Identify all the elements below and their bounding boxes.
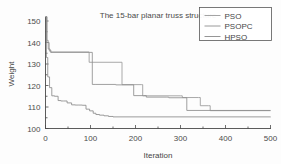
x-tick-label: 400 (219, 134, 233, 143)
x-axis-ticks: 0100200300400500 (43, 125, 277, 143)
y-tick-label: 110 (28, 103, 41, 112)
y-tick-label: 120 (27, 82, 41, 91)
chart-legend: PSOPSOPCHPSO (200, 8, 272, 42)
x-tick-label: 200 (129, 134, 143, 143)
y-tick-label: 130 (27, 60, 41, 69)
x-tick-label: 0 (43, 134, 48, 143)
x-tick-label: 300 (174, 134, 188, 143)
y-axis-label: Weight (7, 61, 16, 87)
y-axis-title-group: Weight (7, 61, 16, 87)
x-tick-label: 500 (264, 134, 278, 143)
legend-label-psopc[interactable]: PSOPC (225, 22, 253, 31)
y-tick-label: 140 (27, 39, 41, 48)
chart-canvas: The 15-bar planar truss structure 100110… (0, 0, 281, 164)
x-tick-label: 100 (84, 134, 98, 143)
legend-label-pso[interactable]: PSO (225, 12, 242, 21)
x-axis-label: Iteration (144, 151, 173, 160)
chart-figure: The 15-bar planar truss structure 100110… (0, 0, 281, 164)
y-tick-label: 150 (27, 17, 41, 26)
x-axis-title-group: Iteration (144, 151, 173, 160)
legend-label-hpso[interactable]: HPSO (225, 33, 248, 42)
y-tick-label: 100 (27, 125, 41, 134)
